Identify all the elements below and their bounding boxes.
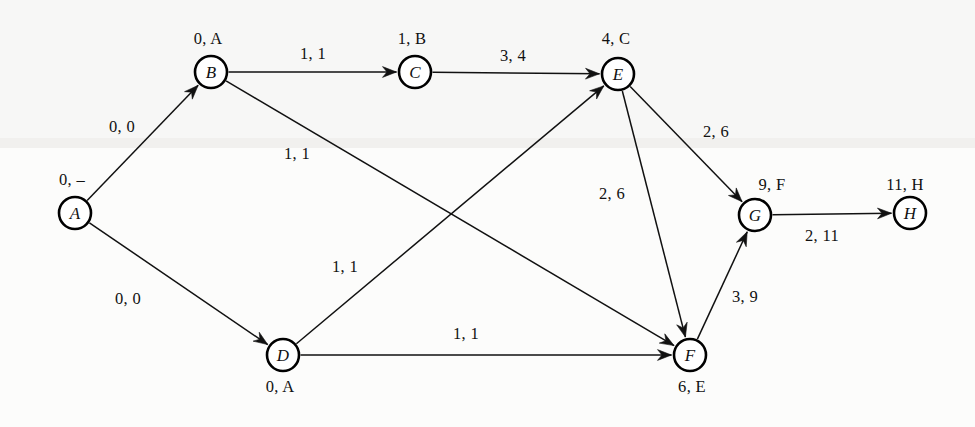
- edge-label-e-g: 2, 6: [703, 122, 729, 141]
- diagram-canvas: ABCDEFGH 0, 00, 01, 11, 13, 41, 11, 12, …: [0, 0, 975, 427]
- edge-label-a-b: 0, 0: [109, 117, 135, 136]
- edge-e-f: [622, 91, 687, 337]
- edge-label-b-f: 1, 1: [284, 144, 310, 163]
- node-letter: H: [903, 204, 918, 223]
- labels-layer: 0, 00, 01, 11, 13, 41, 11, 12, 62, 63, 9…: [59, 29, 924, 396]
- edge-g-h: [772, 208, 891, 219]
- edge-line: [296, 86, 603, 344]
- node-annotation-a: 0, –: [59, 170, 85, 189]
- node-d[interactable]: D: [267, 339, 299, 371]
- edge-line: [432, 72, 599, 74]
- node-f[interactable]: F: [674, 339, 706, 371]
- node-letter: G: [749, 206, 761, 225]
- node-letter: D: [276, 346, 290, 365]
- directed-graph: ABCDEFGH 0, 00, 01, 11, 13, 41, 11, 12, …: [0, 0, 975, 427]
- node-g[interactable]: G: [739, 199, 771, 231]
- edge-b-f: [226, 81, 674, 346]
- edge-line: [697, 232, 747, 339]
- edge-line: [89, 223, 267, 345]
- node-letter: C: [409, 63, 421, 82]
- node-annotation-e: 4, C: [602, 29, 631, 48]
- edge-label-g-h: 2, 11: [805, 226, 839, 245]
- node-letter: E: [612, 65, 624, 84]
- edge-label-f-g: 3, 9: [732, 287, 758, 306]
- edge-d-f: [301, 350, 672, 361]
- edge-c-e: [432, 68, 599, 79]
- node-b[interactable]: B: [195, 56, 227, 88]
- edge-label-b-c: 1, 1: [300, 44, 326, 63]
- node-annotation-c: 1, B: [398, 29, 427, 48]
- edge-line: [87, 85, 198, 200]
- node-annotation-h: 11, H: [886, 175, 924, 194]
- node-annotation-b: 0, A: [194, 29, 223, 48]
- edge-f-g: [697, 232, 747, 339]
- node-letter: A: [69, 204, 81, 223]
- node-annotation-f: 6, E: [678, 377, 706, 396]
- edge-a-d: [89, 223, 267, 345]
- node-annotation-g: 9, F: [759, 175, 786, 194]
- arrowhead: [590, 86, 604, 99]
- node-a[interactable]: A: [59, 197, 91, 229]
- edge-b-c: [229, 67, 397, 78]
- edge-label-d-f: 1, 1: [453, 324, 479, 343]
- edge-label-c-e: 3, 4: [500, 46, 526, 65]
- arrowhead: [659, 334, 674, 346]
- arrowhead: [253, 332, 268, 344]
- node-letter: B: [206, 63, 217, 82]
- edge-line: [622, 91, 685, 337]
- node-letter: F: [684, 346, 696, 365]
- node-e[interactable]: E: [602, 58, 634, 90]
- edge-d-e: [296, 86, 603, 344]
- node-annotation-d: 0, A: [266, 377, 295, 396]
- edge-a-b: [87, 85, 198, 200]
- node-c[interactable]: C: [399, 56, 431, 88]
- edge-label-e-f: 2, 6: [599, 184, 625, 203]
- edge-label-a-d: 0, 0: [115, 289, 141, 308]
- edge-label-d-e: 1, 1: [332, 257, 358, 276]
- node-h[interactable]: H: [894, 197, 926, 229]
- edge-line: [772, 213, 891, 215]
- nodes-layer: ABCDEFGH: [59, 56, 926, 371]
- edge-line: [226, 81, 674, 346]
